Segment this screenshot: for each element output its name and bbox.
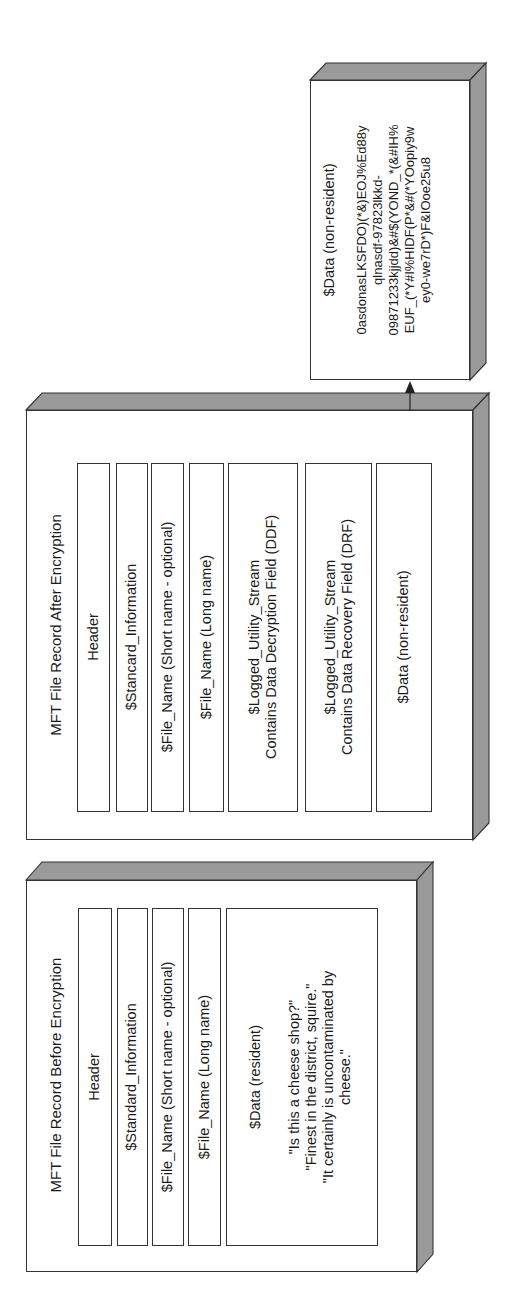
before-field-standard-information-label: $Standard_Information — [117, 908, 147, 1246]
before-field-header-label: Header — [80, 908, 110, 1246]
mft-record-after-title: MFT File Record After Encryption — [41, 410, 71, 840]
after-field-ddf-label: $Logged_Utility_Stream Contains Data Dec… — [242, 463, 284, 812]
after-field-filename-short-label: $File_Name (Short name - optional) — [153, 463, 183, 812]
before-field-data-resident-label: $Data (resident) — [241, 908, 271, 1246]
after-field-data-nonresident-label: $Data (non-resident) — [389, 463, 419, 812]
external-data-label: $Data (non-resident) — [315, 80, 345, 380]
before-field-filename-short-label: $File_Name (Short name - optional) — [153, 908, 183, 1246]
after-field-drf-label: $Logged_Utility_Stream Contains Data Rec… — [318, 463, 360, 812]
after-field-filename-long-label: $File_Name (Long name) — [192, 463, 222, 812]
before-field-filename-long-label: $File_Name (Long name) — [190, 908, 220, 1246]
before-field-data-resident-content: "Is this a cheese shop?" "Finest in the … — [279, 908, 361, 1246]
external-data-content: 0asdonasLKSFDO)(*&)EOJ%Ed88y qlnasdf-978… — [350, 80, 438, 380]
after-field-standard-information-label: $Stancard_Information — [117, 463, 147, 812]
mft-record-before-title: MFT File Record Before Encryption — [41, 879, 71, 1271]
after-field-header-label: Header — [79, 463, 109, 812]
